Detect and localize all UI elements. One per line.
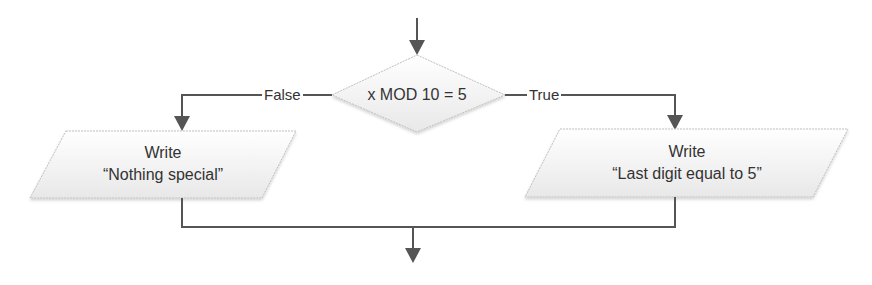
entry-arrow	[409, 18, 425, 55]
true-branch-label: True	[527, 86, 561, 103]
false-output-text: Write “Nothing special”	[48, 142, 278, 186]
false-output-message: “Nothing special”	[48, 164, 278, 186]
false-branch-label: False	[262, 86, 303, 103]
true-output-title: Write	[543, 141, 831, 163]
true-output-message: “Last digit equal to 5”	[543, 163, 831, 185]
false-branch-connector	[174, 95, 332, 131]
merge-connector	[182, 197, 675, 263]
true-output-text: Write “Last digit equal to 5”	[543, 141, 831, 185]
false-output-title: Write	[48, 142, 278, 164]
decision-label: x MOD 10 = 5	[352, 84, 482, 106]
